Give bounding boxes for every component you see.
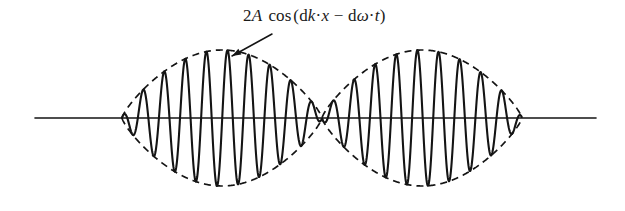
formula-omega-symbol: ω [357,6,369,25]
beat-wave-plot [0,0,625,211]
formula-d-one: d [299,6,308,25]
formula-k-symbol: k [308,6,316,25]
formula-minus: − [334,6,344,25]
formula-d-two: d [348,6,357,25]
formula-function: cos [268,6,291,25]
envelope-formula-label: 2A cos (dk·x − dω·t) [243,6,386,26]
formula-amplitude-symbol: A [252,6,263,25]
formula-amplitude: 2 [243,6,252,25]
formula-x-symbol: x [321,6,329,25]
formula-close-paren: ) [380,6,386,25]
beat-wave-figure: 2A cos (dk·x − dω·t) [0,0,625,211]
